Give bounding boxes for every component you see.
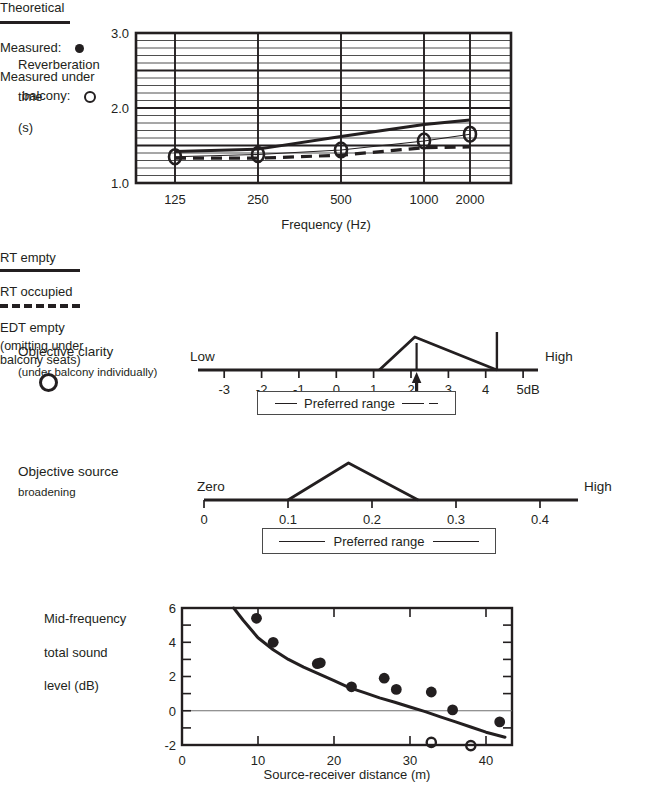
level-measured-points <box>251 613 505 727</box>
rt-legend-item1-label: RT empty <box>0 250 96 265</box>
broadening-distribution-shape <box>288 463 418 500</box>
svg-text:-2: -2 <box>164 738 176 753</box>
svg-text:0.3: 0.3 <box>447 512 465 527</box>
svg-text:1000: 1000 <box>410 192 439 207</box>
svg-text:0.2: 0.2 <box>363 512 381 527</box>
level-y-axis-label-line-1: Mid-frequency <box>44 612 174 626</box>
clarity-preferred-range-label: Preferred range <box>304 396 395 411</box>
rt-y-axis-label-line-2: time <box>18 90 130 104</box>
rt-legend-dashed-line-swatch <box>0 304 80 308</box>
clarity-pref-dash-right <box>429 403 438 404</box>
broadening-tick-labels: 0 0.1 0.2 0.3 0.4 <box>200 512 549 527</box>
rt-legend-solid-line-swatch <box>0 269 80 272</box>
broadening-high-label: High <box>584 479 612 494</box>
clarity-preferred-range-box: Preferred range <box>257 391 456 415</box>
svg-text:40: 40 <box>479 753 493 768</box>
level-y-ticks <box>182 625 191 728</box>
svg-text:0.4: 0.4 <box>531 512 549 527</box>
rt-x-axis-label: Frequency (Hz) <box>196 218 456 232</box>
rt-y-axis-label: Reverberation time (s) <box>18 58 130 153</box>
total-sound-level-chart: Mid-frequency total sound level (dB) <box>0 590 652 798</box>
clarity-distribution-shape <box>379 337 497 370</box>
objective-clarity-chart: Objective clarity (under balcony individ… <box>0 320 652 430</box>
reverberation-time-chart: Reverberation time (s) <box>0 0 652 250</box>
svg-text:0: 0 <box>169 704 176 719</box>
rt-legend-item2-label: RT occupied <box>0 284 96 299</box>
clarity-high-label: High <box>545 349 573 364</box>
level-x-ticks-top <box>258 608 486 617</box>
clarity-pref-line-right <box>402 403 424 404</box>
broadening-preferred-range-box: Preferred range <box>262 528 496 554</box>
broadening-pref-line-left <box>279 541 325 542</box>
svg-text:4: 4 <box>482 382 489 397</box>
objective-source-broadening-label-group: Objective source broadening <box>18 464 119 498</box>
broadening-pref-line-right <box>433 541 479 542</box>
level-y-ticks-right <box>503 625 512 728</box>
svg-text:30: 30 <box>403 753 417 768</box>
svg-text:10: 10 <box>251 753 265 768</box>
objective-clarity-label-group: Objective clarity (under balcony individ… <box>18 344 157 378</box>
svg-text:5dB: 5dB <box>516 382 539 397</box>
objective-source-broadening-title-line1: Objective source <box>18 464 119 479</box>
objective-clarity-subtitle: (under balcony individually) <box>18 366 157 378</box>
clarity-pref-line-left <box>275 403 297 404</box>
svg-text:125: 125 <box>164 192 186 207</box>
objective-clarity-title: Objective clarity <box>18 344 113 359</box>
broadening-zero-label: Zero <box>197 479 225 494</box>
svg-text:250: 250 <box>247 192 269 207</box>
level-x-axis-label: Source-receiver distance (m) <box>217 768 477 782</box>
level-y-axis-label: Mid-frequency total sound level (dB) <box>44 612 174 693</box>
rt-major-gridlines <box>136 71 511 146</box>
level-x-ticks <box>182 736 486 745</box>
svg-text:0: 0 <box>200 512 207 527</box>
svg-text:2000: 2000 <box>456 192 485 207</box>
svg-text:0: 0 <box>178 753 185 768</box>
objective-source-broadening-chart: Objective source broadening 0 0.1 0.2 0.… <box>0 440 652 570</box>
svg-text:3.0: 3.0 <box>111 26 129 41</box>
svg-text:-3: -3 <box>218 382 230 397</box>
level-theoretical-curve <box>234 608 505 737</box>
rt-y-axis-label-line-3: (s) <box>18 121 130 135</box>
svg-text:500: 500 <box>330 192 352 207</box>
clarity-low-label: Low <box>190 349 215 364</box>
level-y-axis-label-line-3: level (dB) <box>44 679 174 693</box>
rt-y-axis-label-line-1: Reverberation <box>18 58 130 72</box>
svg-text:1.0: 1.0 <box>111 176 129 191</box>
svg-text:0.1: 0.1 <box>279 512 297 527</box>
broadening-preferred-range-label: Preferred range <box>333 534 424 549</box>
level-y-axis-label-line-2: total sound <box>44 646 174 660</box>
objective-source-broadening-title-line2: broadening <box>18 486 119 498</box>
svg-text:20: 20 <box>327 753 341 768</box>
rt-x-tick-labels: 125 250 500 1000 2000 <box>164 192 484 207</box>
level-x-tick-labels: 0 10 20 30 40 <box>178 753 493 768</box>
